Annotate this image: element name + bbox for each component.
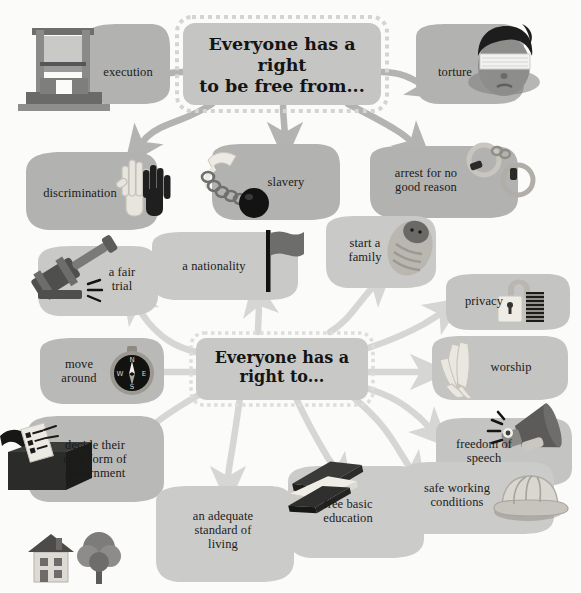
label-nationality: a nationality: [164, 259, 264, 273]
label-living-line3: living: [160, 537, 286, 551]
label-speech-line2: speech: [440, 451, 528, 465]
label-discrimination-line1: discrimination: [28, 186, 132, 200]
label-work-line1: safe working: [404, 481, 510, 495]
label-slavery-line1: slavery: [248, 175, 324, 189]
label-arrest: arrest for no good reason: [376, 166, 476, 194]
label-family-line2: family: [334, 250, 396, 264]
hub-bottom-title: Everyone has a right to...: [196, 348, 368, 386]
label-torture-line1: torture: [420, 65, 490, 79]
hub-bottom-line2: right to...: [196, 367, 368, 386]
hub-top-line1: Everyone has a right: [183, 34, 381, 76]
hub-top-title: Everyone has a right to be free from...: [183, 34, 381, 97]
label-worship-line1: worship: [478, 360, 544, 374]
label-speech: freedom of speech: [440, 437, 528, 465]
label-move-around: move around: [48, 357, 110, 385]
label-nationality-line1: a nationality: [164, 259, 264, 273]
label-government-line2: own form of: [42, 452, 148, 466]
label-living: an adequate standard of living: [160, 509, 286, 551]
label-discrimination: discrimination: [28, 186, 132, 200]
label-government-line3: government: [42, 466, 148, 480]
label-privacy: privacy: [452, 294, 516, 308]
label-fair-trial-line2: trial: [92, 279, 152, 293]
label-speech-line1: freedom of: [440, 437, 528, 451]
label-arrest-line2: good reason: [376, 180, 476, 194]
label-family: start a family: [334, 236, 396, 264]
label-execution-line1: execution: [88, 65, 168, 79]
label-living-line1: an adequate: [160, 509, 286, 523]
label-government: decide their own form of government: [42, 438, 148, 480]
label-privacy-line1: privacy: [452, 294, 516, 308]
label-education-line2: education: [296, 511, 400, 525]
label-move-around-line1: move: [48, 357, 110, 371]
label-torture: torture: [420, 65, 490, 79]
label-fair-trial-line1: a fair: [92, 265, 152, 279]
label-family-line1: start a: [334, 236, 396, 250]
label-arrest-line1: arrest for no: [376, 166, 476, 180]
label-layer: Everyone has a right to be free from... …: [0, 0, 581, 593]
label-move-around-line2: around: [48, 371, 110, 385]
hub-top-line2: to be free from...: [183, 76, 381, 97]
hub-bottom-line1: Everyone has a: [196, 348, 368, 367]
label-work: safe working conditions: [404, 481, 510, 509]
label-education: free basic education: [296, 497, 400, 525]
label-fair-trial: a fair trial: [92, 265, 152, 293]
label-slavery: slavery: [248, 175, 324, 189]
label-government-line1: decide their: [42, 438, 148, 452]
infographic-canvas: N E S W: [0, 0, 581, 593]
label-education-line1: free basic: [296, 497, 400, 511]
label-work-line2: conditions: [404, 495, 510, 509]
label-worship: worship: [478, 360, 544, 374]
label-living-line2: standard of: [160, 523, 286, 537]
label-execution: execution: [88, 65, 168, 79]
